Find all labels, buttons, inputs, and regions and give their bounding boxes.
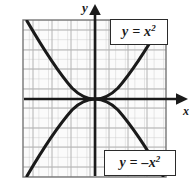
y-axis-label: y xyxy=(82,0,88,16)
equation-label-y-equals-negative-x-squared: y = –x2 xyxy=(104,150,176,176)
equation-upper-exponent: 2 xyxy=(151,23,156,33)
equation-label-y-equals-x-squared: y = x2 xyxy=(110,19,168,45)
equation-lower-exponent: 2 xyxy=(156,154,161,164)
parabola-figure: y x y = x2 y = –x2 xyxy=(0,0,194,181)
x-axis-label: x xyxy=(183,104,189,119)
equation-lower-base: y = –x xyxy=(119,155,155,171)
equation-upper-base: y = x xyxy=(122,24,151,40)
